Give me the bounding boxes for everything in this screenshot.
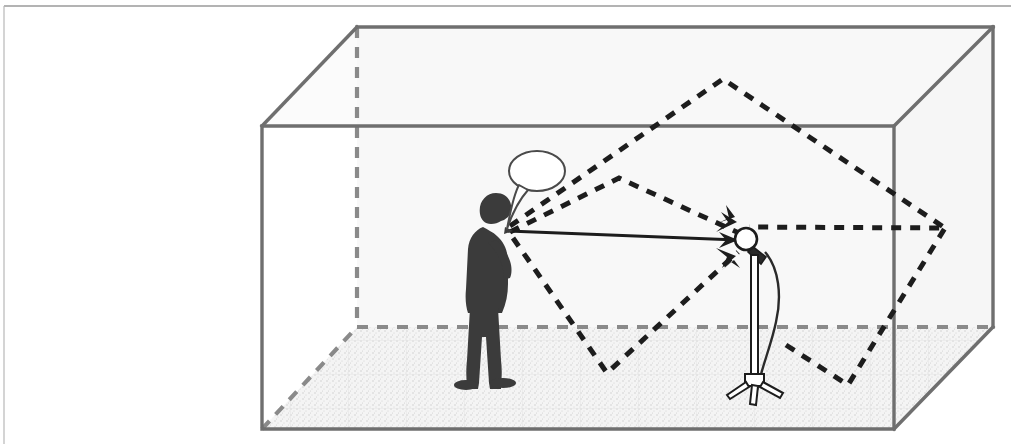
microphone-pole: [751, 255, 758, 380]
room-acoustics-diagram: [0, 0, 1011, 444]
person-shoe-left: [454, 380, 478, 390]
tripod-leg-center: [750, 385, 758, 405]
speech-bubble-body: [509, 151, 565, 191]
microphone-head: [735, 228, 757, 250]
person-shoe-right: [490, 378, 516, 388]
room-box: [262, 27, 993, 429]
floor-face: [262, 327, 993, 429]
diagram-canvas: [0, 0, 1011, 444]
